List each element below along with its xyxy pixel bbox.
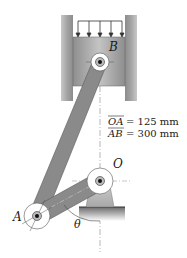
ground xyxy=(79,207,125,221)
label-B: B xyxy=(108,40,118,54)
dim-AB-value: = 300 mm xyxy=(126,128,179,139)
arrow-icon xyxy=(76,21,80,37)
dim-OA-symbol: OA xyxy=(108,116,123,127)
dimension-AB: AB = 300 mm xyxy=(107,128,179,139)
pressure-arrows xyxy=(76,21,124,37)
dimension-OA: OA = 125 mm xyxy=(108,116,179,127)
arrow-icon xyxy=(109,21,113,37)
dim-OA-value: = 125 mm xyxy=(126,116,179,127)
label-O: O xyxy=(113,157,123,171)
arrow-icon xyxy=(120,21,124,37)
arrow-icon xyxy=(98,21,102,37)
label-theta: θ xyxy=(74,218,81,231)
label-A: A xyxy=(12,210,22,224)
cylinder-wall-left xyxy=(61,15,73,101)
cylinder-wall-right xyxy=(125,15,137,101)
arrow-icon xyxy=(87,21,91,37)
slider-crank-diagram: B O A θ OA = 125 mm AB = 300 mm xyxy=(0,0,187,258)
pin-O xyxy=(87,168,113,194)
dim-AB-symbol: AB xyxy=(107,128,123,139)
